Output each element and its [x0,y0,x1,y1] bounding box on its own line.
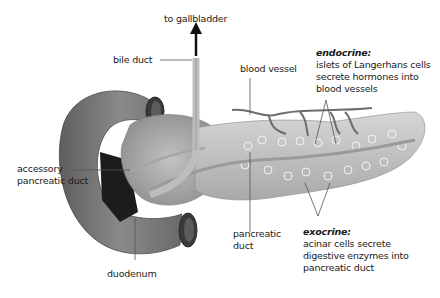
endocrine-line: blood vessels [316,83,431,95]
bile-duct-label: bile duct [113,54,152,66]
exocrine-line: acinar cells secrete [303,238,409,250]
to-gallbladder-label: to gallbladder [164,13,227,25]
exocrine-line: pancreatic duct [303,262,409,274]
endocrine-title: endocrine: [316,47,431,59]
exocrine-line: digestive enzymes into [303,250,409,262]
label-line: accessory [17,163,88,175]
label-line: duct [233,240,281,252]
exocrine-label: exocrine: acinar cells secrete digestive… [303,226,409,274]
duodenum-label: duodenum [107,268,156,280]
endocrine-line: secrete hormones into [316,71,431,83]
endocrine-label: endocrine: islets of Langerhans cells se… [316,47,431,95]
label-line: pancreatic [233,228,281,240]
pancreatic-duct-label: pancreatic duct [233,228,281,252]
arrow-up-icon [190,22,202,56]
exocrine-title: exocrine: [303,226,409,238]
label-line: pancreatic duct [17,175,88,187]
blood-vessel-label: blood vessel [240,63,297,75]
accessory-pancreatic-duct-label: accessory pancreatic duct [17,163,88,187]
endocrine-line: islets of Langerhans cells [316,59,431,71]
